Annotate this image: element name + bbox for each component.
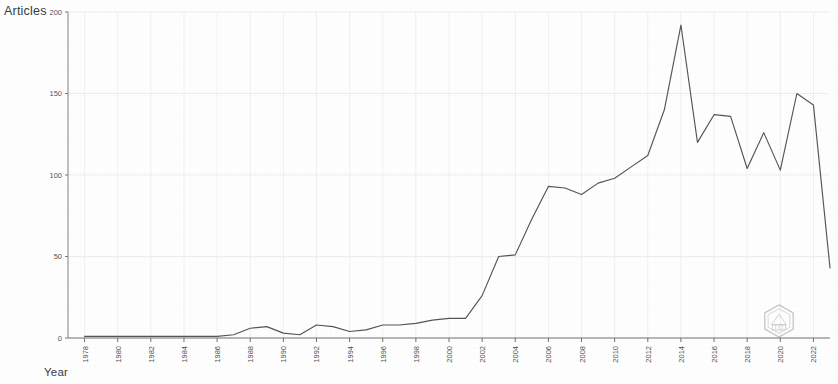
- x-tick-label: 1990: [279, 346, 288, 363]
- y-tick-label: 0: [58, 334, 62, 343]
- x-tick-label: 1982: [147, 346, 156, 363]
- x-tick-label: 2004: [511, 346, 520, 363]
- y-tick-labels: 050100150200: [49, 8, 62, 343]
- x-tick-label: 2016: [710, 346, 719, 363]
- chart-figure: Articles 050100150200 197819801982198419…: [0, 0, 838, 384]
- x-tick-label: 2010: [611, 346, 620, 363]
- x-tick-label: 2002: [478, 346, 487, 363]
- x-tick-label: 2020: [776, 346, 785, 363]
- y-tick-label: 50: [54, 252, 62, 261]
- x-tick-label: 2000: [445, 346, 454, 363]
- x-tick-label: 1996: [379, 346, 388, 363]
- x-axis-title: Year: [44, 366, 68, 378]
- x-tick-label: 2006: [544, 346, 553, 363]
- x-tick-label: 1994: [346, 346, 355, 363]
- x-tick-label: 1998: [412, 346, 421, 363]
- y-tick-label: 100: [49, 171, 62, 180]
- x-tick-label: 1980: [114, 346, 123, 363]
- data-series-line: [85, 25, 830, 336]
- x-tick-labels: 1978198019821984198619881990199219941996…: [81, 346, 819, 363]
- line-chart-plot: 050100150200 197819801982198419861988199…: [0, 0, 838, 384]
- x-tick-label: 2008: [578, 346, 587, 363]
- x-tick-label: 2014: [677, 346, 686, 363]
- x-tick-label: 1988: [246, 346, 255, 363]
- x-tick-marks: [85, 338, 814, 342]
- x-tick-label: 1984: [180, 346, 189, 363]
- y-tick-label: 200: [49, 8, 62, 17]
- hexagon-seal-watermark-icon: [760, 303, 798, 339]
- x-tick-label: 1992: [312, 346, 321, 363]
- x-tick-label: 2012: [644, 346, 653, 363]
- x-tick-label: 1986: [213, 346, 222, 363]
- grid-lines: [68, 12, 830, 338]
- x-tick-label: 2022: [809, 346, 818, 363]
- y-tick-label: 150: [49, 89, 62, 98]
- y-axis-title: Articles: [4, 4, 47, 18]
- x-tick-label: 1978: [81, 346, 90, 363]
- x-tick-label: 2018: [743, 346, 752, 363]
